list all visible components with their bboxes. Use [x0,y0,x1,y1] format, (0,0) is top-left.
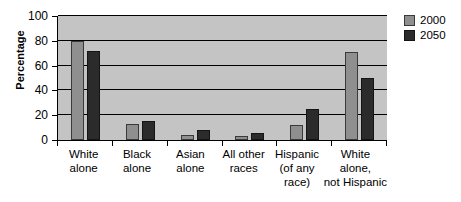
x-axis-label-line: White [57,147,110,161]
y-tick-label-100: 100 [28,9,48,23]
bar-2050-5 [361,78,374,140]
bar-group [222,16,277,140]
bar-2000-4 [290,125,303,140]
x-axis-label-line: race) [270,175,323,189]
plot-area [57,16,387,141]
bar-2050-4 [306,109,319,140]
x-axis-label-0: Whitealone [57,147,110,189]
bar-group [168,16,223,140]
bar-2000-0 [71,41,84,140]
chart-legend: 20002050 [404,14,446,41]
bar-chart: Percentage 020406080100 WhitealoneBlacka… [0,0,461,202]
bar-2000-5 [345,52,358,140]
bar-2000-2 [181,135,194,140]
legend-swatch-icon [404,30,415,41]
x-axis-label-5: Whitealone,not Hispanic [324,147,387,189]
y-tick-label-40: 40 [35,83,48,97]
bar-group [277,16,332,140]
y-tick-label-0: 0 [41,133,48,147]
x-axis-label-line: alone [110,161,163,175]
x-axis-label-line: (of any [270,161,323,175]
bar-2050-2 [197,130,210,140]
x-axis-label-line: alone, [324,161,387,175]
x-axis-label-line: All other [217,147,270,161]
x-axis-label-3: All otherraces [217,147,270,189]
x-tick-mark [222,141,223,146]
x-axis-label-line: Black [110,147,163,161]
x-axis-labels: WhitealoneBlackaloneAsianaloneAll otherr… [57,147,387,189]
legend-item-2050: 2050 [404,29,446,41]
x-tick-mark [276,141,277,146]
y-tick-label-20: 20 [35,108,48,122]
bar-groups [58,16,387,140]
legend-label: 2050 [420,29,446,41]
bar-2050-3 [251,133,264,140]
x-axis-label-line: Asian [164,147,217,161]
x-axis-label-4: Hispanic(of anyrace) [270,147,323,189]
x-axis-label-line: not Hispanic [324,175,387,189]
legend-item-2000: 2000 [404,14,446,26]
x-axis-label-line: races [217,161,270,175]
x-tick-mark [57,141,58,146]
bar-2050-1 [142,121,155,140]
x-tick-mark [386,141,387,146]
bar-2000-3 [235,136,248,140]
x-tick-mark [112,141,113,146]
y-tick-label-80: 80 [35,34,48,48]
x-tick-mark [331,141,332,146]
bar-group [332,16,387,140]
legend-label: 2000 [420,14,446,26]
legend-swatch-icon [404,15,415,26]
x-axis-label-line: alone [164,161,217,175]
x-axis-ticks [57,141,387,146]
x-axis-label-line: Hispanic [270,147,323,161]
bar-2000-1 [126,124,139,140]
x-axis-label-line: alone [57,161,110,175]
x-axis-label-2: Asianalone [164,147,217,189]
y-axis-ticks: 020406080100 [18,0,52,202]
x-axis-label-1: Blackalone [110,147,163,189]
bar-group [58,16,113,140]
bar-group [113,16,168,140]
x-axis-label-line: White [324,147,387,161]
y-tick-label-60: 60 [35,59,48,73]
bar-2050-0 [87,51,100,140]
x-tick-mark [167,141,168,146]
